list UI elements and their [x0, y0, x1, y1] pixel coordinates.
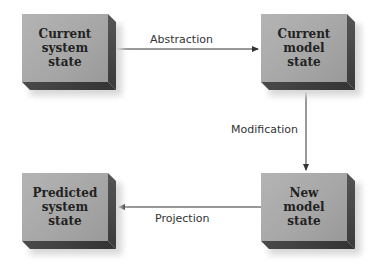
node-new-model-state: New model state [261, 173, 347, 241]
node-predicted-system-state: Predicted system state [22, 173, 108, 241]
node-current-model-state: Current model state [261, 14, 347, 82]
abstraction-label: Abstraction [150, 33, 213, 46]
node-current-system-state: Current system state [22, 14, 108, 82]
projection-label: Projection [155, 212, 209, 225]
modification-label: Modification [231, 123, 298, 136]
node-label: Current model state [278, 27, 331, 69]
node-label: Current system state [39, 27, 92, 69]
node-label: New model state [283, 186, 324, 228]
node-label: Predicted system state [33, 186, 98, 228]
